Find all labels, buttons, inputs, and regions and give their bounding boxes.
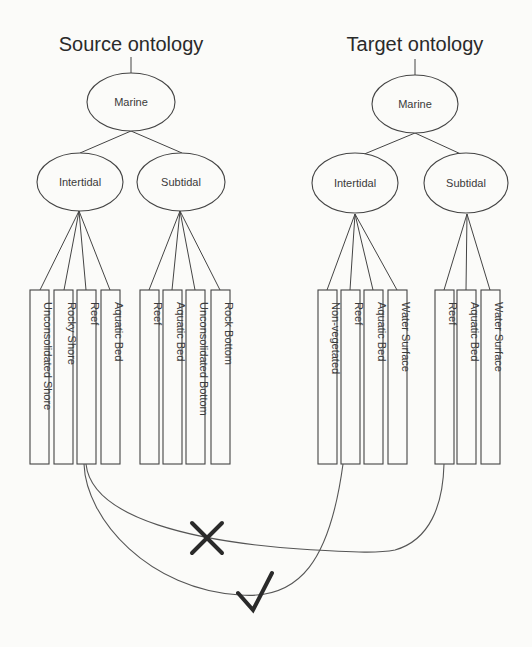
target-edge-marine-intertidal bbox=[362, 133, 415, 155]
target-leaf-label: Aquatic Bed bbox=[376, 302, 388, 361]
source-leaf-label: Aquatic Bed bbox=[113, 302, 125, 361]
target-node-subtidal-label: Subtidal bbox=[446, 177, 486, 189]
source-leaf-label: Rock Bottom bbox=[223, 302, 235, 365]
cross-icon bbox=[192, 523, 222, 553]
target-edge bbox=[355, 214, 397, 290]
target-node-intertidal-label: Intertidal bbox=[334, 177, 376, 189]
source-leaf-label: Rocky Shore bbox=[66, 302, 78, 365]
mapping-line-incorrect bbox=[86, 464, 444, 552]
target-ontology: Target ontology Marine Intertidal Subtid… bbox=[312, 33, 508, 290]
target-node-marine-label: Marine bbox=[398, 98, 432, 110]
source-ontology: Source ontology Marine Intertidal Subtid… bbox=[37, 33, 225, 290]
target-title: Target ontology bbox=[347, 33, 484, 55]
source-node-intertidal-label: Intertidal bbox=[59, 176, 101, 188]
target-edge bbox=[444, 214, 467, 290]
source-edge bbox=[172, 211, 180, 290]
target-leaf-label: Aquatic Bed bbox=[469, 302, 481, 361]
source-leaf-label: Unconsolidated Bottom bbox=[198, 302, 210, 416]
target-edge bbox=[355, 214, 373, 290]
source-edge bbox=[180, 211, 220, 290]
source-edge bbox=[79, 211, 86, 290]
source-edge bbox=[149, 211, 180, 290]
target-leaf-label: Water Surface bbox=[493, 302, 505, 372]
source-leaf-label: Reef bbox=[89, 302, 101, 326]
source-edge-marine-intertidal bbox=[80, 131, 131, 153]
source-edge bbox=[79, 211, 110, 290]
target-edge-marine-subtidal bbox=[415, 133, 463, 155]
target-edge bbox=[467, 214, 490, 290]
source-node-subtidal-label: Subtidal bbox=[161, 176, 201, 188]
leaf-concepts: Unconsolidated ShoreRocky ShoreReefAquat… bbox=[30, 290, 505, 464]
ontology-matching-diagram: Source ontology Marine Intertidal Subtid… bbox=[0, 0, 532, 647]
source-edge bbox=[40, 211, 79, 290]
target-leaf-label: Water Surface bbox=[400, 302, 412, 372]
source-leaf-label: Aquatic Bed bbox=[175, 302, 187, 361]
source-edge bbox=[64, 211, 79, 290]
source-edge bbox=[180, 211, 195, 290]
source-edge-marine-subtidal bbox=[131, 131, 182, 153]
target-leaf-label: Non-vegetated bbox=[330, 302, 342, 374]
target-leaf-label: Reef bbox=[353, 302, 365, 326]
target-edge bbox=[466, 214, 467, 290]
source-title: Source ontology bbox=[59, 33, 204, 55]
check-icon bbox=[238, 573, 272, 610]
mappings bbox=[84, 464, 444, 610]
source-node-marine-label: Marine bbox=[114, 96, 148, 108]
source-leaf-label: Unconsolidated Shore bbox=[42, 302, 54, 410]
source-leaf-label: Reef bbox=[152, 302, 164, 326]
